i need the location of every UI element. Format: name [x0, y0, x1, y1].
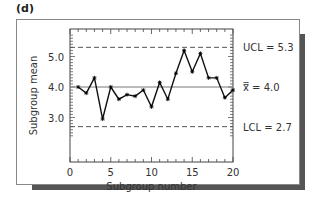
data-point-marker: [190, 70, 194, 74]
data-point-marker: [76, 85, 80, 89]
data-point-marker: [215, 76, 219, 80]
x-tick-label: 5: [108, 167, 114, 178]
data-point-marker: [223, 96, 227, 100]
data-point-marker: [182, 48, 186, 52]
data-point-marker: [101, 117, 105, 121]
center-label: x̿ = 4.0: [242, 82, 279, 93]
lcl-label: LCL = 2.7: [243, 122, 292, 133]
y-axis-title: Subgroup mean: [28, 56, 39, 136]
y-tick-label: 4.0: [48, 82, 64, 93]
data-point-marker: [150, 105, 154, 109]
ucl-label: UCL = 5.3: [243, 42, 294, 53]
data-point-marker: [133, 94, 137, 98]
control-chart: 051015203.04.05.0Subgroup numberSubgroup…: [0, 0, 316, 197]
data-line: [78, 50, 233, 119]
x-axis-title: Subgroup number: [106, 181, 197, 192]
x-tick-label: 10: [145, 167, 158, 178]
data-point-marker: [117, 97, 121, 101]
data-point-marker: [84, 91, 88, 95]
data-point-marker: [109, 85, 113, 89]
y-tick-label: 3.0: [48, 113, 64, 124]
x-tick-label: 20: [227, 167, 240, 178]
data-point-marker: [158, 80, 162, 84]
data-point-marker: [141, 88, 145, 92]
data-point-marker: [174, 71, 178, 75]
data-point-marker: [231, 88, 235, 92]
plot-area: [70, 29, 233, 162]
data-point-marker: [207, 76, 211, 80]
x-tick-label: 0: [67, 167, 73, 178]
data-point-marker: [125, 93, 129, 97]
data-point-marker: [166, 97, 170, 101]
data-point-marker: [198, 51, 202, 55]
data-point-marker: [92, 76, 96, 80]
y-tick-label: 5.0: [48, 52, 64, 63]
x-tick-label: 15: [186, 167, 199, 178]
